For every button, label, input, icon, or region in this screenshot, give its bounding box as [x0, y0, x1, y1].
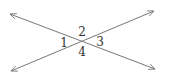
intersecting-lines-diagram: 1 2 3 4 [0, 0, 170, 81]
angle-label-3: 3 [96, 35, 104, 49]
angle-label-1: 1 [60, 36, 68, 50]
angle-label-4: 4 [78, 45, 86, 59]
line-b [11, 11, 154, 71]
angle-label-2: 2 [78, 25, 86, 39]
